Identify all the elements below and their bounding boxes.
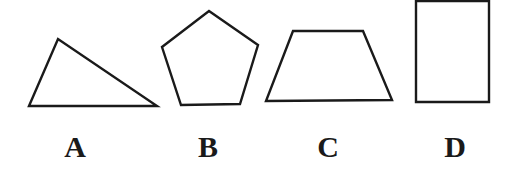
trapezoid-shape [266,31,392,101]
label-c: C [308,130,348,164]
triangle-shape [29,39,157,106]
label-b: B [188,130,228,164]
label-a: A [55,130,95,164]
pentagon-shape [162,11,258,105]
label-d: D [435,130,475,164]
rectangle-shape [416,1,489,102]
